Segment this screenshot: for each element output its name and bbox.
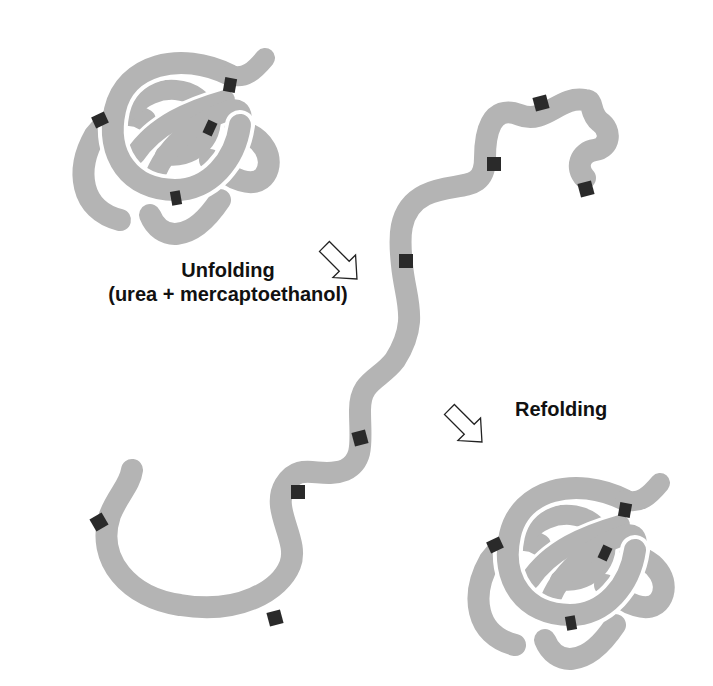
disulfide-marker	[487, 157, 501, 171]
refolded-native-protein	[479, 483, 664, 659]
disulfide-marker	[291, 485, 305, 499]
disulfide-marker	[223, 77, 237, 93]
diagram-canvas	[0, 0, 713, 686]
refolding-arrow	[438, 398, 493, 453]
unfolding-label: Unfolding (urea + mercaptoethanol)	[108, 258, 348, 306]
disulfide-marker	[266, 609, 283, 626]
unfolding-label-line1: Unfolding	[108, 258, 348, 282]
refolding-label: Refolding	[515, 397, 607, 421]
disulfide-marker	[399, 254, 413, 268]
native-folded-protein	[84, 58, 269, 234]
disulfide-marker	[618, 502, 632, 518]
unfolding-label-line2: (urea + mercaptoethanol)	[108, 282, 348, 306]
